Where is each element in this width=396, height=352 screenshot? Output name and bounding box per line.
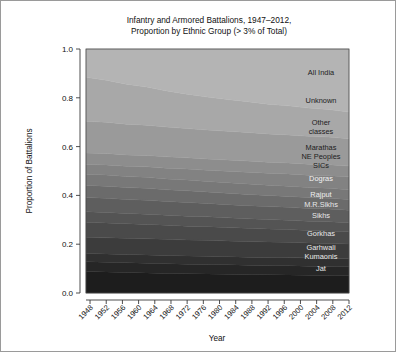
x-tick-label: 1984 xyxy=(222,303,240,321)
band-label: Dogras xyxy=(309,174,333,183)
x-tick-label: 1956 xyxy=(109,303,127,321)
x-tick-label: 2004 xyxy=(303,303,321,321)
x-axis-title: Year xyxy=(209,334,226,343)
band-label: Jat xyxy=(316,264,326,273)
y-axis-group: 0.00.20.40.60.81.0 xyxy=(62,45,80,298)
chart-figure: Infantry and Armored Battalions, 1947–20… xyxy=(0,0,396,352)
chart-title-line2: Proportion by Ethnic Group (> 3% of Tota… xyxy=(131,26,287,36)
x-tick-label: 1952 xyxy=(93,303,111,321)
x-axis-group: 1948195219561960196419681972197619801984… xyxy=(77,300,354,321)
x-tick-label: 1964 xyxy=(141,303,159,321)
band-label: Kumaonis xyxy=(305,252,338,261)
band-label: SICs xyxy=(313,161,329,170)
x-tick-label: 1976 xyxy=(190,303,208,321)
chart-title: Infantry and Armored Battalions, 1947–20… xyxy=(127,15,292,36)
band-label: All India xyxy=(308,68,335,77)
band-label: M.R.Sikhs xyxy=(304,200,338,209)
x-tick-label: 1972 xyxy=(174,303,192,321)
x-tick-label: 1992 xyxy=(255,303,273,321)
band-label: Gorkhas xyxy=(307,229,335,238)
y-tick-label: 0.0 xyxy=(62,289,74,298)
band-label: Sikhs xyxy=(312,211,330,220)
x-tick-label: 2008 xyxy=(319,303,337,321)
y-axis-title: Proportion of Battalions xyxy=(25,128,34,213)
band-label: NE Peoples xyxy=(301,152,340,161)
x-tick-label: 1980 xyxy=(206,303,224,321)
x-tick-label: 1948 xyxy=(77,303,95,321)
y-tick-label: 1.0 xyxy=(62,45,74,54)
band-label: classes xyxy=(309,127,334,136)
y-tick-label: 0.8 xyxy=(62,94,74,103)
stacked-area-chart: Infantry and Armored Battalions, 1947–20… xyxy=(1,1,396,352)
band-label: Marathas xyxy=(306,143,337,152)
x-tick-label: 2000 xyxy=(287,303,305,321)
chart-title-line1: Infantry and Armored Battalions, 1947–20… xyxy=(127,15,292,25)
x-tick-label: 1968 xyxy=(158,303,176,321)
band-label: Rajput xyxy=(310,190,331,199)
y-tick-label: 0.6 xyxy=(62,143,74,152)
x-tick-label: 1996 xyxy=(271,303,289,321)
x-tick-label: 1988 xyxy=(238,303,256,321)
y-tick-label: 0.4 xyxy=(62,191,74,200)
band-label: Other xyxy=(312,118,331,127)
x-tick-label: 2012 xyxy=(336,303,354,321)
band-label: Unknown xyxy=(306,96,337,105)
y-tick-label: 0.2 xyxy=(62,240,74,249)
x-tick-label: 1960 xyxy=(125,303,143,321)
